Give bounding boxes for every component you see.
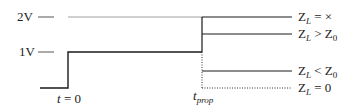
t0-label: t = 0 bbox=[57, 92, 81, 105]
case-label-open: ZL = × bbox=[298, 10, 332, 26]
tprop-label: tprop bbox=[193, 89, 213, 105]
case-label-greater: ZL > Z0 bbox=[298, 27, 337, 43]
tick-label-1v: 1V bbox=[19, 45, 35, 58]
case-label-less: ZL < Z0 bbox=[298, 64, 337, 80]
case-label-short: ZL = 0 bbox=[298, 81, 331, 97]
voltage-step-diagram: 2V 1V t = 0 tprop ZL = × ZL > Z0 ZL < Z0… bbox=[0, 0, 350, 108]
tick-label-2v: 2V bbox=[17, 10, 33, 23]
incident-step bbox=[40, 52, 202, 88]
